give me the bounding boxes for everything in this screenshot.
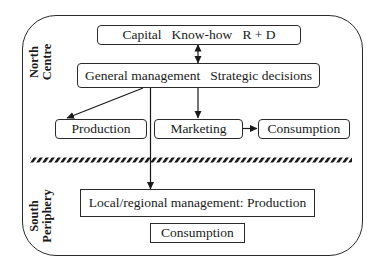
region-label-north-line2: Centre — [41, 39, 54, 85]
region-divider — [30, 158, 352, 163]
node-capital: Capital Know-how R + D — [97, 25, 301, 45]
node-consumption-south: Consumption — [150, 223, 245, 243]
region-label-south: South Periphery — [28, 185, 54, 247]
node-general-management: General management Strategic decisions — [77, 63, 320, 88]
node-consumption-north: Consumption — [258, 119, 350, 139]
general-production-arrow — [67, 88, 143, 118]
node-production: Production — [55, 119, 147, 139]
node-marketing: Marketing — [154, 119, 243, 139]
node-local-management: Local/regional management: Production — [80, 189, 315, 217]
region-label-north: North Centre — [28, 39, 54, 85]
region-label-south-line2: Periphery — [41, 185, 54, 247]
